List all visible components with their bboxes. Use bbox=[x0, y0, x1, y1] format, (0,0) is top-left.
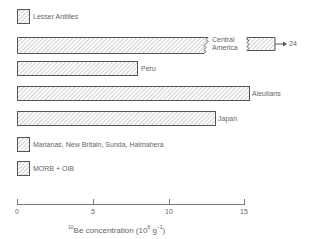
x-tick-label-10: 10 bbox=[165, 208, 173, 216]
label-marianas: Marianas, New Britain, Sunda, Halmahera bbox=[33, 141, 164, 149]
chart-canvas bbox=[0, 0, 313, 239]
bar-peru bbox=[18, 62, 138, 76]
label-central-america-1: Central bbox=[212, 36, 235, 44]
bar-marianas bbox=[18, 138, 30, 152]
x-tick-label-0: 0 bbox=[15, 208, 19, 216]
arrow-head-icon bbox=[283, 42, 287, 47]
bar-lesser-antilles bbox=[18, 10, 30, 24]
bar-central-america bbox=[18, 38, 209, 54]
label-break-value: 24 bbox=[289, 40, 297, 48]
bar-morb-oib bbox=[18, 162, 30, 176]
label-japan: Japan bbox=[218, 115, 237, 123]
x-tick-label-15: 15 bbox=[240, 208, 248, 216]
label-aleutians: Aleutians bbox=[252, 90, 281, 98]
label-morb-oib: MORB + OIB bbox=[33, 165, 74, 173]
label-lesser-antilles: Lesser Antilles bbox=[33, 13, 78, 21]
bar-japan bbox=[18, 112, 216, 126]
label-peru: Peru bbox=[141, 65, 156, 73]
chart: Lesser Antilles Central America 24 Peru … bbox=[0, 0, 313, 239]
bar-central-america-break bbox=[247, 38, 275, 51]
label-central-america-2: America bbox=[212, 44, 238, 52]
x-axis-title: 10Be concentration (106 g−1) bbox=[68, 223, 165, 235]
bar-aleutians bbox=[18, 87, 250, 101]
x-tick-label-5: 5 bbox=[91, 208, 95, 216]
